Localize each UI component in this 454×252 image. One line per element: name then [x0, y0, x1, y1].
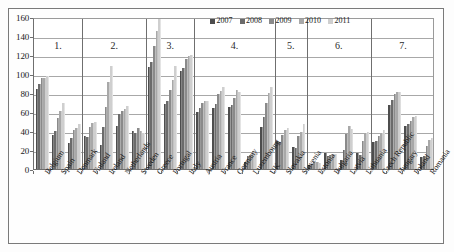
bar-group [114, 19, 130, 169]
x-axis-tick-mark [49, 171, 50, 174]
x-axis-tick-mark [370, 171, 371, 174]
legend-item: 2010 [299, 17, 322, 25]
bar-group [82, 19, 98, 169]
legend-label: 2009 [276, 17, 292, 25]
x-axis-tick-mark [306, 171, 307, 174]
chart-figure: 020406080100120140160 1.2.3.4.5.6.7. 200… [0, 0, 454, 252]
y-axis-tick-label: 140 [0, 33, 29, 42]
y-axis-tick-label: 60 [0, 109, 29, 118]
bar-group [307, 19, 323, 169]
y-axis-tick-label: 160 [0, 14, 29, 23]
x-axis-tick-mark [290, 171, 291, 174]
x-axis-tick-mark [97, 171, 98, 174]
bar-group [226, 19, 242, 169]
x-axis-labels: BelgiumSpainDenmarkFinlandIrelandNetherl… [33, 171, 434, 247]
legend-label: 2008 [246, 17, 262, 25]
x-axis-tick-mark [129, 171, 130, 174]
legend-swatch-icon [240, 19, 245, 24]
x-axis-tick-mark [81, 171, 82, 174]
bar-group [355, 19, 371, 169]
legend-swatch-icon [269, 19, 274, 24]
bar-group [34, 19, 50, 169]
y-axis-tick-label: 20 [0, 147, 29, 156]
x-axis-tick-mark [145, 171, 146, 174]
bar [110, 66, 113, 169]
x-axis-tick-mark [402, 171, 403, 174]
legend-item: 2007 [210, 17, 233, 25]
bar [238, 92, 241, 169]
x-axis-tick-mark [225, 171, 226, 174]
chart-legend: 20072008200920102011 [210, 17, 350, 25]
legend-item: 2011 [328, 17, 350, 25]
legend-label: 2010 [305, 17, 321, 25]
bar-group [210, 19, 226, 169]
y-axis-tick-label: 100 [0, 71, 29, 80]
y-axis-tick-label: 40 [0, 128, 29, 137]
bar-group [66, 19, 82, 169]
x-axis-tick-mark [177, 171, 178, 174]
x-axis-tick-mark [113, 171, 114, 174]
x-axis-tick-mark [193, 171, 194, 174]
legend-swatch-icon [299, 19, 304, 24]
bar-group [291, 19, 307, 169]
x-axis-tick-mark [209, 171, 210, 174]
y-axis-tick-label: 80 [0, 90, 29, 99]
x-axis-tick-mark [354, 171, 355, 174]
bar-group [323, 19, 339, 169]
bar-group [194, 19, 210, 169]
x-axis-tick-mark [338, 171, 339, 174]
bar-group [178, 19, 194, 169]
x-axis-tick-mark [161, 171, 162, 174]
bar [415, 116, 418, 169]
bar-group [371, 19, 387, 169]
x-axis-tick-mark [418, 171, 419, 174]
x-axis-tick-mark [274, 171, 275, 174]
bar-group [50, 19, 66, 169]
bar [62, 103, 65, 169]
bar [46, 76, 49, 169]
y-axis-tick-label: 120 [0, 52, 29, 61]
x-axis-tick-mark [33, 171, 34, 174]
x-axis-tick-mark [65, 171, 66, 174]
bar-group [419, 19, 434, 169]
y-axis-tick-label: 0 [0, 166, 29, 175]
legend-label: 2011 [335, 17, 351, 25]
bar [174, 66, 177, 169]
x-axis-tick-mark [386, 171, 387, 174]
x-axis-tick-mark [322, 171, 323, 174]
bar [126, 106, 129, 169]
x-axis-tick-mark [258, 171, 259, 174]
x-axis-tick-mark [242, 171, 243, 174]
bar [158, 18, 161, 169]
legend-label: 2007 [217, 17, 233, 25]
bar-group [98, 19, 114, 169]
legend-item: 2008 [240, 17, 263, 25]
bar-group [162, 19, 178, 169]
legend-swatch-icon [328, 19, 333, 24]
bar [206, 101, 209, 169]
bar-group [339, 19, 355, 169]
legend-swatch-icon [210, 19, 215, 24]
legend-item: 2009 [269, 17, 292, 25]
